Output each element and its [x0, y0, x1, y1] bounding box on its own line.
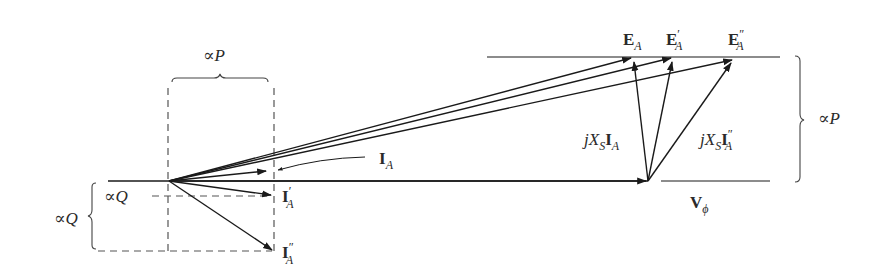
label-ea: EA	[623, 30, 642, 53]
ea1-phasor	[169, 58, 671, 181]
label-vphi: Vϕ	[690, 193, 709, 216]
ia1-phasor	[169, 181, 271, 195]
label-prop-q-outer: ∝Q	[54, 209, 78, 228]
label-prop-q-inner: ∝Q	[104, 187, 128, 206]
ia-phasor	[169, 171, 266, 181]
ia-leader-line	[278, 157, 365, 170]
brace-right	[795, 56, 804, 182]
brace-left	[88, 183, 96, 249]
phasor-diagram: ∝P ∝Q ∝Q ∝P IA I′A I″A EA E′A E″A jXS	[0, 0, 894, 277]
label-prop-p-top: ∝P	[203, 46, 225, 65]
label-ia1: I′A	[282, 184, 294, 211]
label-jxs-ia: jXSIA	[582, 130, 620, 153]
ea-phasor	[169, 58, 631, 181]
label-ia2: I″A	[282, 240, 294, 267]
dashed-guides	[98, 88, 274, 251]
brace-top	[172, 74, 268, 82]
ia2-phasor	[169, 181, 272, 250]
label-ea1: E′A	[666, 27, 683, 53]
label-prop-p-right: ∝P	[818, 109, 840, 128]
label-ea2: E″A	[728, 27, 744, 53]
label-jxs-ia2: jXSI″A	[698, 127, 733, 153]
phasor-diagram-svg: ∝P ∝Q ∝Q ∝P IA I′A I″A EA E′A E″A jXS	[0, 0, 894, 277]
label-ia: IA	[379, 149, 394, 172]
